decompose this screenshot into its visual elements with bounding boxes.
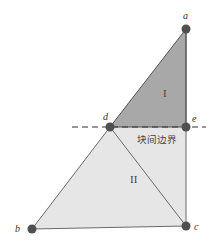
region-one [110,29,186,127]
diagram-canvas: a d e b c I II 块间边界 [0,0,219,247]
vertex-e [182,123,191,132]
region-two-label: II [130,173,138,185]
vertex-d [106,123,115,132]
region-one-label: I [163,87,167,99]
vertex-b [28,225,37,234]
vertex-a [182,25,191,34]
label-d: d [103,111,109,122]
label-c: c [194,221,199,232]
vertex-c [182,222,191,231]
diagram-svg: a d e b c I II 块间边界 [0,0,219,247]
label-e: e [192,113,197,124]
label-b: b [15,223,20,234]
label-a: a [183,10,188,21]
block-boundary-label: 块间边界 [137,134,177,145]
